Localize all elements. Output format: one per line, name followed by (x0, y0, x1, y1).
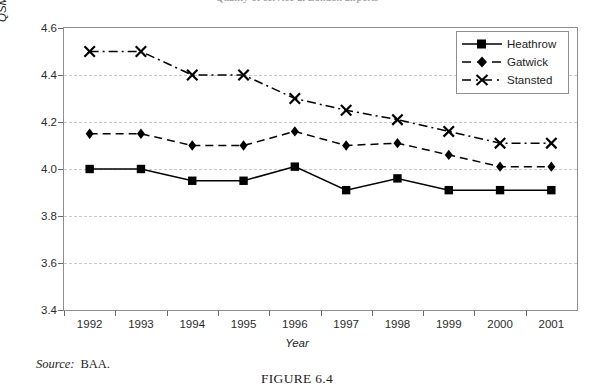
x-tick-label: 1992 (77, 318, 103, 330)
legend-item-stansted[interactable]: Stansted (461, 71, 564, 89)
data-point-marker (496, 186, 504, 194)
data-point-marker (86, 129, 94, 139)
legend-label-stansted: Stansted (507, 74, 552, 86)
data-point-marker (547, 186, 555, 194)
data-point-marker (290, 93, 300, 103)
x-tick-mark (372, 311, 373, 316)
data-point-marker (188, 177, 196, 185)
legend-swatch-dashdot-cross-icon (461, 72, 503, 88)
source-value: BAA. (80, 357, 110, 371)
data-point-marker (85, 165, 93, 173)
figure-caption: FIGURE 6.4 (0, 371, 594, 387)
cropped-title-text: Quality of service at London airports (0, 0, 594, 8)
data-point-marker (392, 114, 402, 124)
x-axis-title: Year (0, 337, 594, 349)
legend-item-gatwick[interactable]: Gatwick (461, 53, 564, 71)
data-point-marker (393, 138, 401, 148)
x-tick-label: 1997 (333, 318, 359, 330)
x-tick-mark (218, 311, 219, 316)
y-tick-label: 3.6 (27, 257, 57, 269)
chart-legend: Heathrow Gatwick Stansted (456, 31, 569, 94)
data-point-marker (444, 126, 454, 136)
y-tick-label: 3.8 (27, 210, 57, 222)
figure-container: Quality of service at London airports QS… (0, 0, 594, 391)
data-point-marker (240, 140, 248, 150)
source-label: Source: (36, 357, 74, 371)
x-tick-mark (474, 311, 475, 316)
data-point-marker (136, 46, 146, 56)
data-point-marker (137, 129, 145, 139)
x-tick-label: 2001 (539, 318, 565, 330)
legend-item-heathrow[interactable]: Heathrow (461, 35, 564, 53)
data-point-marker (291, 162, 299, 170)
data-point-marker (342, 186, 350, 194)
data-point-marker (342, 140, 350, 150)
y-tick-label: 4.4 (27, 69, 57, 81)
x-tick-label: 1994 (179, 318, 205, 330)
legend-label-gatwick: Gatwick (507, 56, 548, 68)
data-point-marker (393, 174, 401, 182)
series-line-heathrow (90, 167, 552, 191)
x-tick-mark (321, 311, 322, 316)
legend-swatch-solid-square-icon (461, 36, 503, 52)
x-tick-label: 1993 (128, 318, 154, 330)
y-tick-label: 4.2 (27, 116, 57, 128)
data-point-marker (239, 177, 247, 185)
legend-label-heathrow: Heathrow (507, 38, 556, 50)
x-tick-label: 1999 (436, 318, 462, 330)
data-point-marker (495, 138, 505, 148)
data-point-marker (546, 138, 556, 148)
x-tick-mark (423, 311, 424, 316)
x-tick-label: 1998 (385, 318, 411, 330)
data-point-marker (445, 150, 453, 160)
data-point-marker (445, 186, 453, 194)
x-tick-label: 1995 (231, 318, 257, 330)
x-tick-mark (526, 311, 527, 316)
y-tick-label: 4.0 (27, 163, 57, 175)
x-tick-label: 1996 (282, 318, 308, 330)
data-point-marker (547, 161, 555, 171)
data-point-marker (187, 70, 197, 80)
y-tick-label: 4.6 (27, 22, 57, 34)
x-tick-mark (64, 311, 65, 316)
data-point-marker (496, 161, 504, 171)
x-tick-mark (115, 311, 116, 316)
data-point-marker (188, 140, 196, 150)
x-tick-label: 2000 (487, 318, 513, 330)
series-line-gatwick (90, 131, 552, 166)
legend-swatch-dashed-diamond-icon (461, 54, 503, 70)
x-tick-mark (269, 311, 270, 316)
data-point-marker (137, 165, 145, 173)
source-note: Source:BAA. (36, 357, 110, 372)
x-tick-mark (167, 311, 168, 316)
y-axis-title: QSM score (from 1=extremely poor to 5=ex… (0, 0, 8, 22)
y-tick-label: 3.4 (27, 304, 57, 316)
data-point-marker (291, 126, 299, 136)
